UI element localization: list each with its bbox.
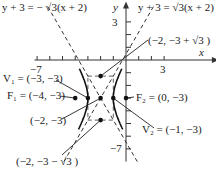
x-tick-label-3: 3 (160, 63, 166, 75)
point-top (98, 74, 103, 79)
hyperbola-diagram: y + 3 = − √3(x + 2) y + 3 = √3(x + 2) x … (0, 0, 216, 169)
asymptote-right (62, 7, 153, 164)
leader-top (101, 40, 148, 76)
x-axis-label: x (198, 46, 204, 58)
x-axis-arrow (212, 57, 216, 63)
y-tick-label-3: 3 (112, 16, 118, 28)
point-f2 (124, 96, 129, 101)
leader-bottom (62, 120, 101, 155)
asymptote-left-equation: y + 3 = − √3(x + 2) (2, 1, 87, 14)
label-f1: F₁ = (−4, −3) (7, 89, 65, 102)
asymptote-right-equation: y + 3 = √3(x + 2) (138, 1, 214, 14)
y-axis-label: y (112, 1, 118, 13)
label-v1: V₁ = (−3, −3) (3, 72, 63, 85)
point-v2 (111, 96, 116, 101)
label-f2: F₂ = (0, −3) (136, 91, 188, 104)
point-bottom (98, 118, 103, 123)
asymptote-left (48, 7, 139, 164)
label-v2: V₂ = (−1, −3) (142, 123, 202, 136)
y-axis-arrow (123, 1, 129, 8)
point-v1 (86, 96, 91, 101)
label-center: (−2, −3) (30, 114, 67, 127)
leader-center (62, 98, 101, 119)
label-top-point: (−2, −3 + √3 ) (148, 34, 211, 47)
point-center (98, 96, 103, 101)
point-f1 (73, 96, 78, 101)
points (73, 74, 128, 123)
label-bottom-point: (−2, −3 − √3 ) (16, 155, 79, 168)
y-tick-label-neg7: −7 (110, 142, 122, 154)
asymptotes (48, 7, 154, 164)
